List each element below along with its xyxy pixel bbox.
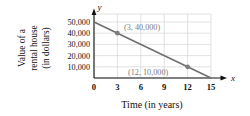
y-axis-variable-label: y [97, 2, 102, 12]
y-tick-label: 50,000 [67, 18, 90, 27]
y-axis-title-line: (in dollars) [41, 27, 52, 68]
x-axis-title: Time (in years) [121, 99, 182, 111]
x-tick-label: 15 [207, 82, 216, 92]
y-axis-title-line: rental house [29, 25, 39, 71]
data-point-marker [115, 31, 120, 36]
x-axis-variable-label: x [230, 73, 235, 83]
x-tick-labels: 0 3 6 9 12 15 [92, 82, 215, 92]
y-tick-labels: 50,000 40,000 30,000 20,000 10,000 [67, 18, 90, 72]
chart-screenshot: y x 50,000 40,000 30,000 20,000 10,000 0… [0, 0, 250, 116]
x-tick-label: 6 [139, 82, 144, 92]
data-point-label: (3, 40,000) [124, 23, 160, 32]
y-axis-arrow-icon [92, 9, 97, 16]
y-axis [92, 9, 97, 79]
data-point-marker [185, 64, 190, 69]
y-tick-label: 10,000 [67, 63, 90, 72]
rental-house-value-line-chart: y x 50,000 40,000 30,000 20,000 10,000 0… [0, 0, 250, 116]
y-tick-label: 20,000 [67, 52, 90, 61]
x-tick-label: 3 [115, 82, 119, 92]
y-axis-title: Value of a rental house (in dollars) [17, 25, 52, 71]
y-tick-label: 30,000 [67, 40, 90, 49]
y-tick-label: 40,000 [67, 29, 90, 38]
x-axis-arrow-icon [221, 76, 228, 81]
y-axis-title-line: Value of a [17, 28, 27, 67]
x-tick-label: 0 [92, 82, 96, 92]
x-tick-label: 12 [183, 82, 192, 92]
x-tick-label: 9 [162, 82, 166, 92]
data-point-label: (12, 10,000) [128, 68, 169, 77]
